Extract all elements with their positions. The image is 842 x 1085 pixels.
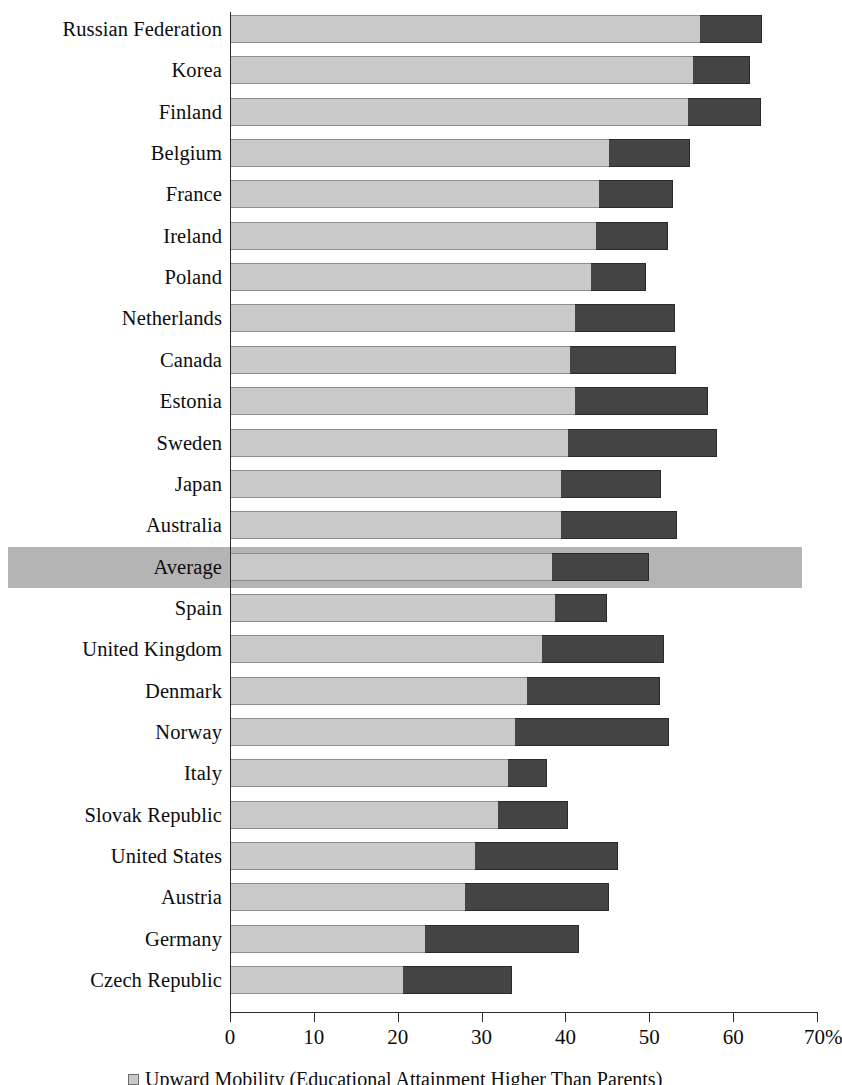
stacked-bar	[230, 842, 618, 870]
category-label: Average	[0, 553, 222, 581]
chart-row: Austria	[0, 877, 835, 918]
category-label: Ireland	[0, 222, 222, 250]
stacked-bar	[230, 966, 512, 994]
bar-segment-upward-mobility	[230, 222, 596, 250]
stacked-bar	[230, 346, 676, 374]
bar-segment-upward-mobility	[230, 594, 555, 622]
bar-segment-downward-mobility	[527, 677, 660, 705]
bar-segment-upward-mobility	[230, 718, 515, 746]
stacked-bar	[230, 635, 664, 663]
bar-segment-upward-mobility	[230, 759, 508, 787]
legend-label: Upward Mobility (Educational Attainment …	[145, 1068, 662, 1085]
chart-row: Italy	[0, 753, 835, 794]
y-axis-line	[230, 12, 231, 1012]
x-axis-tick	[482, 1013, 483, 1022]
x-axis-tick	[733, 1013, 734, 1022]
chart-row: United States	[0, 836, 835, 877]
category-label: Korea	[0, 56, 222, 84]
category-label: Italy	[0, 759, 222, 787]
bar-segment-downward-mobility	[561, 511, 677, 539]
chart-row: Sweden	[0, 423, 835, 464]
stacked-bar	[230, 98, 761, 126]
bar-segment-upward-mobility	[230, 346, 570, 374]
bar-segment-downward-mobility	[688, 98, 761, 126]
stacked-bar	[230, 180, 673, 208]
category-label: Netherlands	[0, 304, 222, 332]
bar-segment-upward-mobility	[230, 98, 688, 126]
stacked-bar	[230, 801, 568, 829]
bar-segment-upward-mobility	[230, 842, 475, 870]
stacked-bar	[230, 429, 717, 457]
legend-item: Upward Mobility (Educational Attainment …	[128, 1068, 662, 1085]
bar-segment-upward-mobility	[230, 139, 609, 167]
bar-segment-upward-mobility	[230, 56, 693, 84]
bar-segment-upward-mobility	[230, 180, 599, 208]
chart-row: Slovak Republic	[0, 795, 835, 836]
chart-row: Canada	[0, 340, 835, 381]
chart-row: Norway	[0, 712, 835, 753]
stacked-bar	[230, 304, 675, 332]
category-label: Russian Federation	[0, 15, 222, 43]
bar-segment-downward-mobility	[555, 594, 608, 622]
x-axis-tick-label: 40	[555, 1024, 576, 1050]
bar-segment-downward-mobility	[508, 759, 547, 787]
bar-segment-upward-mobility	[230, 677, 527, 705]
bar-segment-downward-mobility	[700, 15, 763, 43]
x-axis-tick	[817, 1013, 818, 1022]
bar-segment-downward-mobility	[609, 139, 690, 167]
category-label: Spain	[0, 594, 222, 622]
chart-row: Spain	[0, 588, 835, 629]
bar-segment-upward-mobility	[230, 553, 552, 581]
chart-row: Estonia	[0, 381, 835, 422]
stacked-bar	[230, 553, 649, 581]
stacked-bar	[230, 470, 661, 498]
x-axis-tick	[565, 1013, 566, 1022]
bar-segment-upward-mobility	[230, 15, 700, 43]
category-label: Denmark	[0, 677, 222, 705]
x-axis-tick	[230, 1013, 231, 1022]
chart-legend: Upward Mobility (Educational Attainment …	[0, 1068, 835, 1085]
chart-row: Germany	[0, 919, 835, 960]
stacked-bar	[230, 677, 660, 705]
bar-segment-downward-mobility	[498, 801, 568, 829]
bar-segment-downward-mobility	[570, 346, 676, 374]
stacked-bar	[230, 387, 708, 415]
stacked-bar	[230, 883, 609, 911]
bar-segment-downward-mobility	[599, 180, 673, 208]
bar-segment-downward-mobility	[425, 925, 578, 953]
bar-segment-downward-mobility	[693, 56, 750, 84]
bar-segment-downward-mobility	[568, 429, 717, 457]
bar-segment-downward-mobility	[475, 842, 618, 870]
x-axis-tick-label: 50	[639, 1024, 660, 1050]
category-label: United States	[0, 842, 222, 870]
bar-segment-upward-mobility	[230, 387, 575, 415]
bar-segment-upward-mobility	[230, 925, 425, 953]
chart-row: Japan	[0, 464, 835, 505]
category-label: Slovak Republic	[0, 801, 222, 829]
chart-row: Korea	[0, 50, 835, 91]
bar-segment-downward-mobility	[575, 387, 707, 415]
chart-row: Belgium	[0, 133, 835, 174]
stacked-bar	[230, 594, 607, 622]
bar-segment-upward-mobility	[230, 801, 498, 829]
x-axis-tick-label: 60	[723, 1024, 744, 1050]
chart-row: Poland	[0, 257, 835, 298]
bar-segment-downward-mobility	[542, 635, 664, 663]
stacked-bar	[230, 718, 669, 746]
chart-row: United Kingdom	[0, 629, 835, 670]
bar-segment-downward-mobility	[552, 553, 649, 581]
bar-segment-upward-mobility	[230, 263, 591, 291]
chart-row: Denmark	[0, 671, 835, 712]
bar-segment-upward-mobility	[230, 470, 561, 498]
bar-segment-downward-mobility	[403, 966, 512, 994]
x-axis-tick-label: 30	[471, 1024, 492, 1050]
bar-segment-downward-mobility	[575, 304, 675, 332]
category-label: Poland	[0, 263, 222, 291]
category-label: Germany	[0, 925, 222, 953]
stacked-bar	[230, 222, 668, 250]
category-label: Australia	[0, 511, 222, 539]
bar-segment-upward-mobility	[230, 966, 403, 994]
x-axis-tick-label: 20	[387, 1024, 408, 1050]
legend-swatch-icon	[128, 1074, 139, 1085]
category-label: Estonia	[0, 387, 222, 415]
